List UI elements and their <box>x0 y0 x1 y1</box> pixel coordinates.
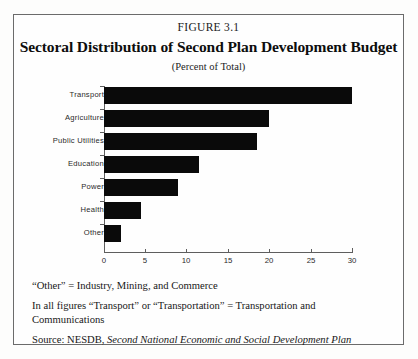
category-axis-labels: Transport Agriculture Public Utilities E… <box>26 86 104 251</box>
category-label-other: Other <box>26 228 104 237</box>
bar-health <box>104 202 141 219</box>
category-label-education: Education <box>26 159 104 168</box>
bar-agriculture <box>104 110 269 127</box>
x-axis-tick <box>104 248 105 253</box>
footnote-other: “Other” = Industry, Mining, and Commerce <box>32 279 390 293</box>
footnote-source: Source: NESDB, Second National Economic … <box>32 333 390 347</box>
figure-number: FIGURE 3.1 <box>14 20 403 35</box>
x-tick-label-10: 10 <box>182 256 191 265</box>
category-label-public-utilities: Public Utilities <box>26 136 104 145</box>
category-label-transport: Transport <box>26 90 104 99</box>
category-label-power: Power <box>26 182 104 191</box>
x-axis-tick <box>186 249 187 253</box>
x-axis-tick <box>145 249 146 253</box>
bar-education <box>104 156 199 173</box>
x-axis-tick <box>352 248 353 253</box>
bar-transport <box>104 87 352 104</box>
bar-chart: Transport Agriculture Public Utilities E… <box>14 86 403 276</box>
footnote-transport: In all figures “Transport” or “Transport… <box>32 299 390 326</box>
bar-public-utilities <box>104 133 257 150</box>
bars-layer <box>104 86 374 251</box>
category-label-health: Health <box>26 205 104 214</box>
scan-page: FIGURE 3.1 Sectoral Distribution of Seco… <box>0 0 418 359</box>
figure-title-block: FIGURE 3.1 Sectoral Distribution of Seco… <box>14 20 403 74</box>
x-tick-label-15: 15 <box>224 256 233 265</box>
figure-box: FIGURE 3.1 Sectoral Distribution of Seco… <box>13 14 404 345</box>
x-tick-label-5: 5 <box>143 256 147 265</box>
x-axis-tick <box>228 249 229 253</box>
source-prefix: Source: NESDB, <box>32 334 107 345</box>
x-axis-tick <box>269 249 270 253</box>
figure-subtitle: (Percent of Total) <box>14 59 403 74</box>
figure-footnotes: “Other” = Industry, Mining, and Commerce… <box>32 279 390 346</box>
x-tick-label-25: 25 <box>307 256 316 265</box>
x-tick-label-20: 20 <box>265 256 274 265</box>
figure-title: Sectoral Distribution of Second Plan Dev… <box>14 36 403 57</box>
x-tick-label-30: 30 <box>348 256 357 265</box>
bar-power <box>104 179 178 196</box>
x-axis-tick <box>311 249 312 253</box>
source-publication-title: Second National Economic and Social Deve… <box>107 334 351 345</box>
x-tick-label-0: 0 <box>102 256 106 265</box>
category-label-agriculture: Agriculture <box>26 113 104 122</box>
bar-other <box>104 225 121 242</box>
